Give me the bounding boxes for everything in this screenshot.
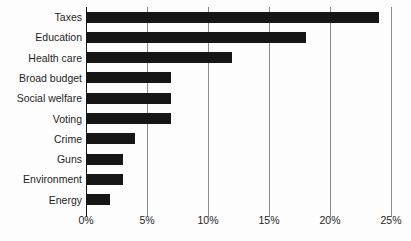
bar-chart: Taxes Education Health care Broad budget…	[0, 0, 411, 241]
bar-row	[86, 129, 391, 149]
x-tick-label: 20%	[319, 214, 340, 226]
x-tick-label: 15%	[258, 214, 279, 226]
x-tick-label: 5%	[139, 214, 154, 226]
category-label: Guns	[0, 149, 82, 169]
bar	[86, 32, 306, 43]
bar-row	[86, 109, 391, 129]
gridline-5	[391, 7, 392, 217]
bar-row	[86, 169, 391, 189]
category-label: Broad budget	[0, 68, 82, 88]
bar	[86, 72, 171, 83]
category-label: Environment	[0, 169, 82, 189]
bar-row	[86, 149, 391, 169]
bar-row	[86, 68, 391, 88]
category-label: Energy	[0, 190, 82, 210]
bar	[86, 113, 171, 124]
bar	[86, 52, 232, 63]
bar-row	[86, 48, 391, 68]
bars-container	[86, 7, 391, 210]
bar	[86, 194, 110, 205]
category-label: Crime	[0, 129, 82, 149]
bar	[86, 93, 171, 104]
bar	[86, 154, 123, 165]
value-axis-labels: 0% 5% 10% 15% 20% 25%	[0, 214, 411, 234]
x-tick-label: 10%	[197, 214, 218, 226]
x-tick-label: 25%	[380, 214, 401, 226]
bar	[86, 12, 379, 23]
category-label: Voting	[0, 109, 82, 129]
x-tick-label: 0%	[78, 214, 93, 226]
category-label: Health care	[0, 48, 82, 68]
category-axis-labels: Taxes Education Health care Broad budget…	[0, 7, 82, 210]
category-label: Taxes	[0, 7, 82, 27]
bar-row	[86, 88, 391, 108]
bar	[86, 133, 135, 144]
bar-row	[86, 7, 391, 27]
bar-row	[86, 27, 391, 47]
category-label: Education	[0, 27, 82, 47]
category-label: Social welfare	[0, 88, 82, 108]
bar-row	[86, 190, 391, 210]
bar	[86, 174, 123, 185]
